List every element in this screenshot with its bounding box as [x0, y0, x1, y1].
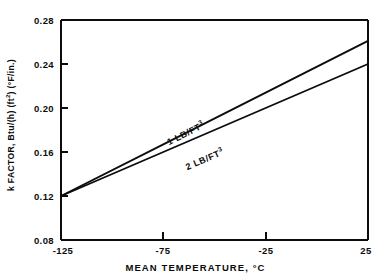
y-axis-title-wrapper: k FACTOR, Btu/(h) (ft2) (°F/in.): [0, 0, 20, 250]
y-axis-title-exponent: 2: [4, 95, 11, 98]
chart-figure: 0.28 0.24 0.20 0.16 0.12 0.08 -125 -75 -…: [0, 0, 391, 279]
x-tick-label-3: 25: [360, 245, 371, 256]
y-axis-title: k FACTOR, Btu/(h) (ft2) (°F/in.): [4, 59, 16, 191]
y-tick-marks: [61, 64, 68, 196]
x-tick-marks: [163, 232, 266, 240]
x-tick-label-2: -25: [259, 245, 274, 256]
plot-canvas: [0, 0, 391, 279]
y-tick-label-5: 0.08: [22, 235, 54, 246]
y-tick-label-1: 0.24: [22, 59, 54, 70]
y-tick-label-3: 0.16: [22, 147, 54, 158]
curve-2-lb-per-ft3: [61, 64, 368, 196]
data-curves: [61, 41, 368, 196]
curve-1-lb-per-ft3: [61, 41, 368, 196]
x-tick-label-0: -125: [53, 245, 74, 256]
y-tick-label-2: 0.20: [22, 103, 54, 114]
y-axis-title-tail: ) (°F/in.): [6, 59, 16, 95]
x-tick-label-1: -75: [156, 245, 171, 256]
y-tick-label-4: 0.12: [22, 191, 54, 202]
y-tick-label-0: 0.28: [22, 15, 54, 26]
y-axis-title-main: k FACTOR, Btu/(h) (ft: [6, 98, 16, 191]
x-axis-title: MEAN TEMPERATURE, °C: [0, 262, 391, 273]
